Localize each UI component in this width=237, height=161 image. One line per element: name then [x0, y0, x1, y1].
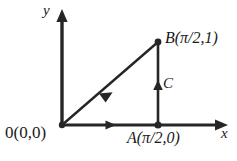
origin-label: 0(0,0): [5, 124, 46, 141]
hypotenuse-line: [62, 42, 158, 125]
coordinate-diagram: y x 0(0,0) B(π/2,1) A(π/2,0) C: [0, 0, 237, 161]
y-axis-arrowhead: [56, 9, 67, 22]
point-dot-b: [155, 39, 162, 46]
x-axis-direction-arrowhead: [106, 121, 117, 130]
hypotenuse-direction-arrowhead: [99, 92, 113, 102]
point-dot-origin: [59, 122, 65, 128]
y-axis-label: y: [43, 3, 50, 18]
point-c-label: C: [163, 76, 173, 91]
point-dot-a: [154, 121, 161, 128]
point-b-label: B(π/2,1): [165, 30, 218, 46]
vertical-leg-direction-arrowhead: [153, 80, 163, 90]
point-a-label: A(π/2,0): [127, 130, 180, 146]
x-axis-label: x: [221, 126, 228, 141]
